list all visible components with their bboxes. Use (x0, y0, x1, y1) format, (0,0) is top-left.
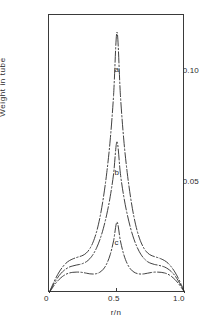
curves-svg (49, 15, 185, 293)
x-tick-label-1: 0.5 (108, 294, 120, 303)
x-axis-label: r/n (48, 308, 184, 317)
curve-label-a: a (115, 65, 119, 74)
chart-figure: Weight in tube 0.10 0.05 a b c 0 0.5 1.0… (0, 0, 199, 325)
x-tick-mark-mid (116, 288, 117, 292)
y-axis-label: Weight in tube (0, 42, 7, 132)
curve-c (49, 222, 185, 293)
curve-label-c: c (115, 238, 119, 247)
curve-label-b: b (115, 168, 119, 177)
x-tick-label-0: 0 (44, 294, 49, 303)
curve-b (49, 142, 185, 293)
plot-area: a b c (48, 14, 184, 292)
x-tick-label-2: 1.0 (173, 294, 185, 303)
